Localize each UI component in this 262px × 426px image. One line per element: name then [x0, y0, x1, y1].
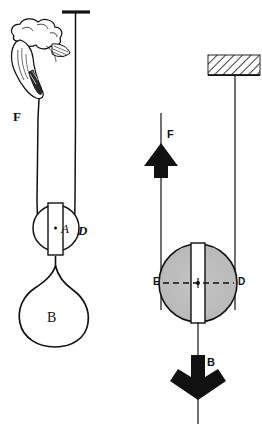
label-diameter-e: E: [153, 277, 160, 287]
arrow-down-icon: [170, 355, 226, 400]
figure-svg: [0, 0, 262, 426]
label-force-left: F: [13, 110, 21, 123]
label-load-b-left: B: [47, 311, 56, 325]
label-pulley-axle-a: A: [61, 222, 69, 235]
left-diagram-group: [12, 12, 91, 347]
right-diagram-group: [144, 55, 260, 424]
label-force-up-right: F: [167, 129, 174, 140]
load-balloon-shape: [19, 266, 88, 347]
rope-left-segment: [37, 99, 39, 222]
pulley-axle-dot: [54, 227, 57, 230]
hand-gripping-rope-icon: [12, 19, 71, 99]
pulley-figure: F A D B F E D B: [0, 0, 262, 426]
label-force-down-b: B: [207, 357, 215, 368]
rope-right-segment: [75, 13, 76, 228]
arrow-up-icon: [144, 143, 178, 178]
hatched-support-block: [208, 55, 260, 75]
label-diameter-d: D: [238, 277, 245, 287]
label-pulley-rim-d: D: [78, 224, 87, 237]
